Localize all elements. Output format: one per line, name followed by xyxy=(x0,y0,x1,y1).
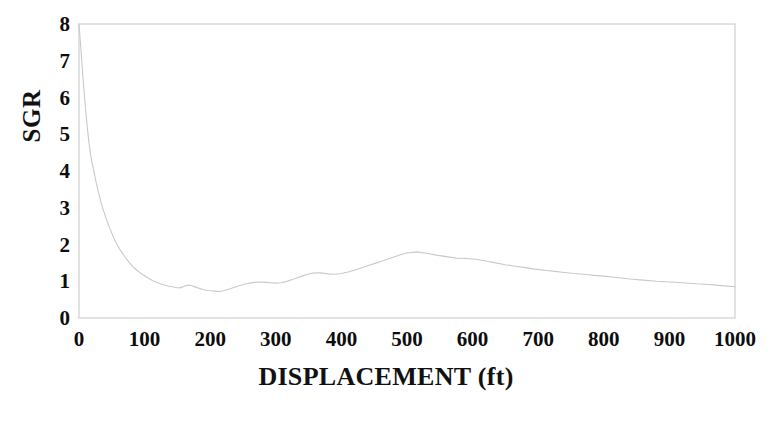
chart-figure: SGR 012345678 01002003004005006007008009… xyxy=(0,0,772,426)
data-series-line xyxy=(79,24,735,292)
plot-frame xyxy=(79,24,735,318)
plot-area xyxy=(0,0,772,426)
